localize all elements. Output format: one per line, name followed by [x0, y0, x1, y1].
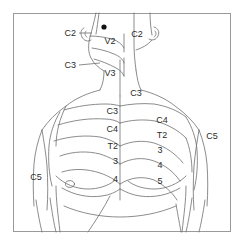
arm-lower-inner-right — [186, 198, 192, 232]
band-c3-right — [120, 104, 186, 117]
deltoid-crease-right — [186, 138, 192, 172]
band-3-left — [60, 152, 120, 164]
dermatome-label-t2-right-chest: T2 — [157, 131, 168, 140]
abdomen-upper — [64, 206, 176, 217]
dermatome-figure: C2V2C3V3C2C3C3C4T234C4T2345C5C5 — [0, 0, 244, 247]
dermatome-label-c5-right: C5 — [206, 132, 218, 141]
neck-left — [100, 71, 104, 90]
face-contour-left — [96, 13, 99, 34]
jaw-outline-left — [89, 13, 104, 71]
trapezius-right — [141, 90, 199, 130]
breast-fold-right — [120, 188, 180, 197]
ear-inner-left — [85, 31, 87, 37]
dermatome-label-n4-right-chest: 4 — [157, 161, 162, 170]
dermatome-label-c4-left-chest: C4 — [106, 125, 118, 134]
arm-lower-inner-left — [50, 198, 56, 232]
arm-outline-left — [33, 130, 42, 206]
dermatome-label-n5-right-chest: 5 — [157, 177, 162, 186]
dermatome-label-t2-left-chest: T2 — [107, 142, 118, 151]
dermatome-label-c4-right-chest: C4 — [156, 116, 168, 125]
band-4-left — [62, 169, 120, 184]
deltoid-left — [49, 112, 60, 186]
dermatome-label-v2-left: V2 — [104, 37, 115, 46]
reference-dot — [101, 24, 106, 29]
dermatome-label-c2-left: C2 — [64, 29, 76, 38]
jaw-outline-right — [150, 13, 152, 35]
dermatome-label-n3-right-chest: 3 — [157, 146, 162, 155]
dermatome-label-v3-left: V3 — [104, 69, 115, 78]
band-v3-left — [92, 48, 124, 63]
dermatome-label-c3-left-chest: C3 — [106, 107, 118, 116]
arm-lower-right — [199, 200, 205, 232]
face-contour-right — [134, 13, 136, 70]
dermatome-label-c3-neck: C3 — [130, 89, 142, 98]
dermatome-label-c2-right: C2 — [131, 30, 143, 39]
leader-line-c3-left — [79, 63, 100, 65]
abdomen-side-right — [176, 204, 181, 232]
torso-side-right — [182, 186, 186, 232]
torso-side-left — [56, 186, 60, 232]
ear-right — [149, 27, 159, 40]
dermatome-label-n4-left-chest: 4 — [113, 175, 118, 184]
dermatome-label-c3-left: C3 — [64, 61, 76, 70]
arm-outline-right — [199, 130, 208, 206]
jaw-band-right — [136, 40, 152, 50]
arm-lower-left — [36, 200, 42, 232]
band-c4-right — [120, 120, 186, 138]
breast-contour-left — [56, 176, 114, 189]
band-3-right — [120, 159, 180, 181]
arm-inner-left — [42, 130, 48, 210]
dermatome-label-c5-left: C5 — [30, 173, 42, 182]
dermatome-label-n3-left-chest: 3 — [113, 157, 118, 166]
ear-inner-right — [154, 31, 156, 37]
trapezius-left — [42, 90, 100, 130]
anatomy-line-art — [0, 0, 244, 247]
